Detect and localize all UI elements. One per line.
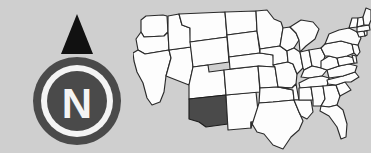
compass-north-needle-icon xyxy=(61,14,93,54)
state-minnesota[interactable] xyxy=(256,10,283,49)
north-compass-rose: N xyxy=(18,8,136,148)
state-colorado[interactable] xyxy=(224,66,260,95)
state-new-jersey[interactable] xyxy=(352,44,360,56)
figure-canvas: N xyxy=(0,0,371,153)
state-wyoming[interactable] xyxy=(190,37,229,67)
state-florida[interactable] xyxy=(320,105,347,139)
state-washington[interactable] xyxy=(141,15,168,37)
state-maine[interactable] xyxy=(363,8,371,25)
state-nevada[interactable] xyxy=(166,47,193,85)
state-california[interactable] xyxy=(133,50,171,105)
state-arizona-highlighted[interactable] xyxy=(189,95,228,127)
united-states-map xyxy=(133,6,371,153)
compass-north-letter: N xyxy=(62,80,92,127)
state-utah[interactable] xyxy=(189,65,226,99)
state-texas[interactable] xyxy=(251,100,303,149)
map-states-group xyxy=(133,8,371,149)
state-rhode-island[interactable] xyxy=(364,31,367,36)
